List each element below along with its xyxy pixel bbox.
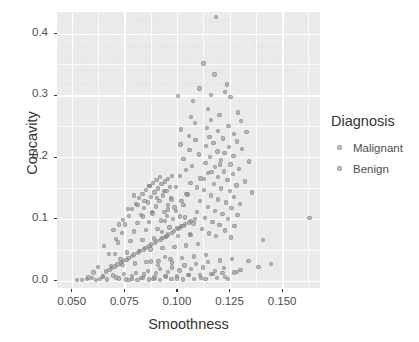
data-point — [130, 207, 134, 211]
data-point — [172, 245, 176, 249]
data-point — [223, 228, 227, 232]
data-point — [193, 217, 197, 221]
data-point — [209, 193, 213, 197]
data-point — [135, 278, 139, 282]
data-point — [256, 265, 260, 269]
data-point — [163, 255, 167, 259]
data-point — [204, 144, 208, 148]
legend-item-benign[interactable]: Benign — [331, 158, 417, 179]
data-point — [178, 142, 182, 146]
data-point — [147, 184, 151, 188]
data-point — [181, 277, 185, 281]
data-point — [198, 273, 202, 277]
data-point — [250, 190, 254, 194]
data-point — [94, 278, 98, 282]
data-point — [171, 217, 175, 221]
data-point — [209, 170, 213, 174]
data-point — [122, 272, 126, 276]
data-point — [307, 216, 311, 220]
data-point — [113, 264, 117, 268]
data-point — [170, 174, 174, 178]
data-point — [212, 72, 216, 76]
data-point — [202, 188, 206, 192]
data-point — [140, 238, 144, 242]
data-point — [217, 113, 221, 117]
y-tick-mark — [54, 95, 57, 96]
data-point — [158, 278, 162, 282]
data-point — [155, 227, 159, 231]
legend-key-icon — [331, 160, 348, 177]
data-point — [127, 214, 131, 218]
data-point — [232, 132, 236, 136]
data-point — [214, 234, 218, 238]
data-point — [269, 262, 273, 266]
legend-key-icon — [331, 139, 348, 156]
data-point — [107, 268, 111, 272]
data-point — [204, 253, 208, 257]
data-point — [219, 186, 223, 190]
data-point — [203, 277, 207, 281]
data-point — [214, 15, 218, 19]
data-point — [212, 182, 216, 186]
data-point — [184, 168, 188, 172]
data-point — [170, 231, 174, 235]
x-tick-mark — [282, 289, 283, 292]
data-point — [177, 268, 181, 272]
data-point — [168, 185, 172, 189]
data-point — [235, 139, 239, 143]
data-point — [158, 267, 162, 271]
x-tick-mark — [229, 289, 230, 292]
data-point — [226, 124, 230, 128]
data-point — [215, 149, 219, 153]
data-point — [160, 246, 164, 250]
data-point — [146, 269, 150, 273]
data-point — [182, 263, 186, 267]
data-point — [126, 207, 130, 211]
data-point — [105, 277, 109, 281]
data-point — [230, 257, 234, 261]
x-tick-mark — [124, 289, 125, 292]
data-point — [198, 199, 202, 203]
y-tick-mark — [54, 157, 57, 158]
data-point — [147, 244, 151, 248]
data-point — [189, 115, 193, 119]
data-point — [156, 263, 160, 267]
data-point — [197, 86, 201, 90]
data-point — [222, 169, 226, 173]
x-axis-title: Smoothness — [57, 316, 320, 332]
data-point — [228, 95, 232, 99]
data-point — [154, 204, 158, 208]
data-point — [187, 148, 191, 152]
data-point — [247, 159, 251, 163]
data-point — [75, 278, 79, 282]
data-point — [226, 217, 230, 221]
data-point — [218, 258, 222, 262]
data-point — [228, 162, 232, 166]
data-point — [188, 181, 192, 185]
data-point — [80, 278, 84, 282]
data-point — [216, 129, 220, 133]
data-point — [217, 223, 221, 227]
data-point — [196, 242, 200, 246]
data-point — [147, 277, 151, 281]
data-point — [176, 234, 180, 238]
data-point — [134, 271, 138, 275]
data-point — [213, 209, 217, 213]
legend-item-malignant[interactable]: Malignant — [331, 137, 417, 158]
data-point — [161, 193, 165, 197]
data-point — [226, 277, 230, 281]
data-point — [179, 199, 183, 203]
data-point — [86, 275, 90, 279]
data-point — [193, 121, 197, 125]
data-point — [206, 205, 210, 209]
data-point — [144, 188, 148, 192]
data-point — [216, 175, 220, 179]
data-point — [120, 231, 124, 235]
data-point — [224, 200, 228, 204]
data-point — [176, 94, 180, 98]
data-point — [202, 177, 206, 181]
data-point — [227, 145, 231, 149]
data-point — [244, 130, 248, 134]
data-point — [197, 152, 201, 156]
data-point — [159, 237, 163, 241]
